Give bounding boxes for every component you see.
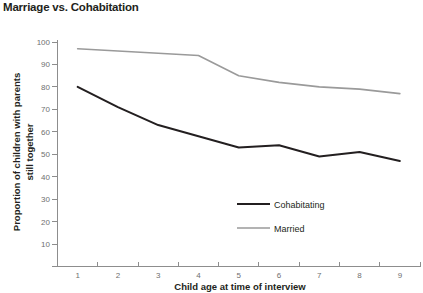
- x-tick-label: 7: [317, 271, 322, 280]
- y-axis-title-line-2: still together: [24, 123, 35, 180]
- y-tick-label: 20: [41, 218, 50, 227]
- chart-figure: Marriage vs. Cohabitation 10203040506070…: [0, 0, 423, 293]
- x-axis: 123456789: [58, 262, 421, 280]
- x-tick-label: 4: [196, 271, 201, 280]
- y-tick-label: 80: [41, 83, 50, 92]
- series-line-married: [78, 49, 400, 94]
- y-tick-label: 50: [41, 150, 50, 159]
- y-tick-label: 40: [41, 173, 50, 182]
- series-group: [78, 49, 400, 161]
- y-axis-title-line-1: Proportion of children with parents: [11, 73, 22, 231]
- y-tick-label: 90: [41, 60, 50, 69]
- y-tick-label: 70: [41, 105, 50, 114]
- x-tick-label: 2: [116, 271, 121, 280]
- x-tick-label: 9: [398, 271, 403, 280]
- y-tick-label: 60: [41, 128, 50, 137]
- x-tick-label: 1: [75, 271, 80, 280]
- x-tick-label: 3: [156, 271, 161, 280]
- x-tick-label: 6: [277, 271, 282, 280]
- y-axis: 102030405060708090100: [37, 38, 58, 267]
- x-axis-title: Child age at time of interview: [174, 281, 306, 292]
- y-tick-group: 102030405060708090100: [37, 38, 58, 267]
- legend-label-cohabitating: Cohabitating: [274, 200, 325, 210]
- y-tick-label: 30: [41, 195, 50, 204]
- x-tick-group: 123456789: [58, 262, 421, 280]
- y-tick-label: 10: [41, 240, 50, 249]
- y-tick-label: 100: [37, 38, 51, 47]
- series-line-cohabitating: [78, 87, 400, 161]
- x-tick-label: 8: [357, 271, 362, 280]
- line-chart-plot: 102030405060708090100 123456789 Proporti…: [0, 0, 423, 293]
- chart-legend: CohabitatingMarried: [237, 200, 325, 234]
- x-tick-label: 5: [237, 271, 242, 280]
- legend-label-married: Married: [274, 224, 305, 234]
